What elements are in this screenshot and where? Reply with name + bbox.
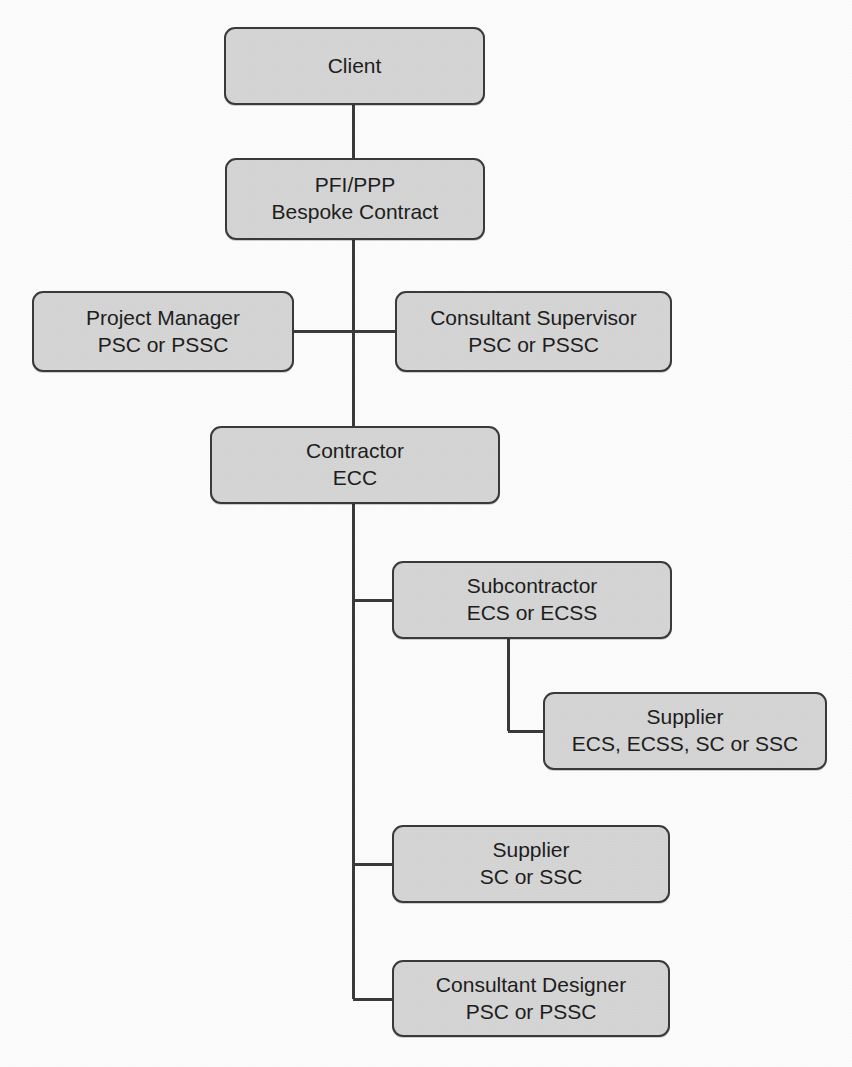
node-label-primary: Consultant Supervisor bbox=[430, 305, 637, 332]
node-label-secondary: PSC or PSSC bbox=[466, 999, 597, 1026]
figure-caption bbox=[8, 1046, 708, 1067]
node-supplier-sc[interactable]: SupplierSC or SSC bbox=[392, 825, 670, 903]
node-label-primary: Project Manager bbox=[86, 305, 240, 332]
node-label-secondary: SC or SSC bbox=[480, 864, 583, 891]
node-label-primary: Subcontractor bbox=[467, 573, 598, 600]
node-pfi-ppp[interactable]: PFI/PPPBespoke Contract bbox=[225, 158, 485, 240]
node-project-manager[interactable]: Project ManagerPSC or PSSC bbox=[32, 291, 294, 372]
node-label-secondary: ECS, ECSS, SC or SSC bbox=[572, 731, 798, 758]
node-label-primary: Consultant Designer bbox=[436, 972, 626, 999]
node-label-secondary: PSC or PSSC bbox=[468, 332, 599, 359]
node-label-secondary: ECC bbox=[333, 465, 377, 492]
node-supplier-ecs[interactable]: SupplierECS, ECSS, SC or SSC bbox=[543, 692, 827, 770]
node-client[interactable]: Client bbox=[224, 27, 485, 105]
node-label-primary: Supplier bbox=[646, 704, 723, 731]
node-label-secondary: ECS or ECSS bbox=[467, 600, 598, 627]
node-contractor[interactable]: ContractorECC bbox=[210, 426, 500, 504]
node-subcontractor[interactable]: SubcontractorECS or ECSS bbox=[392, 561, 672, 639]
node-consultant-designer[interactable]: Consultant DesignerPSC or PSSC bbox=[392, 960, 670, 1037]
node-label-secondary: Bespoke Contract bbox=[272, 199, 439, 226]
node-label-primary: Supplier bbox=[492, 837, 569, 864]
node-label-primary: PFI/PPP bbox=[315, 172, 396, 199]
node-consultant-supervisor[interactable]: Consultant SupervisorPSC or PSSC bbox=[395, 291, 672, 372]
node-label-secondary: PSC or PSSC bbox=[98, 332, 229, 359]
diagram-canvas: ClientPFI/PPPBespoke ContractProject Man… bbox=[0, 0, 852, 1067]
node-label-primary: Contractor bbox=[306, 438, 404, 465]
node-label-primary: Client bbox=[328, 53, 382, 80]
